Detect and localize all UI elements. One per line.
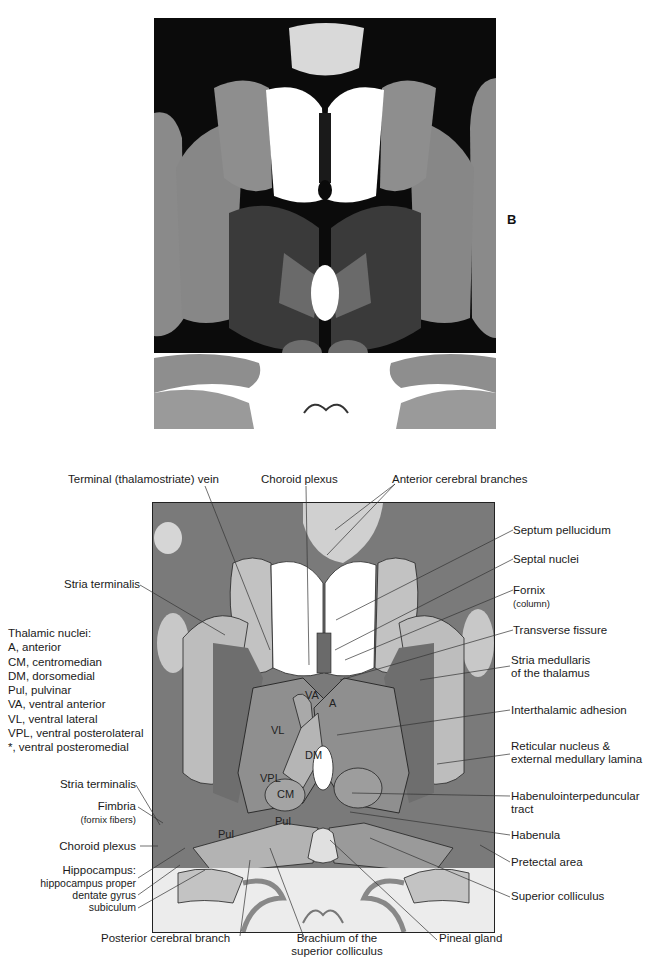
legend-item: VPL, ventral posterolateral [8,726,144,740]
label-fimbria: Fimbria (fornix fibers) [81,800,136,826]
label-stria-medullaris: Stria medullaris of the thalamus [511,654,590,680]
nucleus-label-cm: CM [277,788,294,800]
nucleus-label-pul-2: Pul [218,828,234,840]
thalamus-diagram-graphic [153,503,494,932]
nucleus-label-pul-1: Pul [275,815,291,827]
legend-item: CM, centromedian [8,655,144,669]
label-reticular-line1: Reticular nucleus & [511,740,642,753]
label-reticular-nucleus: Reticular nucleus & external medullary l… [511,740,642,766]
label-superior-colliculus: Superior colliculus [511,890,604,903]
label-brachium-line2: superior colliculus [282,945,392,958]
legend-item: Pul, pulvinar [8,683,144,697]
label-fornix-sub: (column) [513,597,550,610]
label-fimbria-sub: (fornix fibers) [81,813,136,826]
label-habenulointerpeduncular: Habenulointerpeduncular tract [511,790,640,816]
label-hippocampus-proper: hippocampus proper [40,877,136,889]
nucleus-label-vpl: VPL [260,772,281,784]
brain-section-photo [154,18,496,429]
label-transverse-fissure: Transverse fissure [513,624,607,637]
thalamus-diagram: VA A VL DM VPL CM Pul Pul [152,502,495,933]
legend-item: DM, dorsomedial [8,669,144,683]
label-choroid-plexus-top: Choroid plexus [261,473,338,486]
thalamic-nuclei-legend: Thalamic nuclei: A, anterior CM, centrom… [8,626,144,755]
label-hippocampus-title: Hippocampus: [40,864,136,877]
legend-item: VA, ventral anterior [8,697,144,711]
label-reticular-line2: external medullary lamina [511,753,642,766]
label-stria-medullaris-line2: of the thalamus [511,667,590,680]
label-brachium-line1: Brachium of the [282,932,392,945]
nucleus-label-a: A [329,697,336,709]
label-fornix-main: Fornix [513,584,545,596]
label-stria-terminalis-2: Stria terminalis [60,778,136,791]
label-terminal-vein: Terminal (thalamostriate) vein [68,473,219,486]
label-stria-terminalis-1: Stria terminalis [64,578,140,591]
label-hippocampus: Hippocampus: hippocampus proper dentate … [40,864,136,913]
label-interthalamic-adhesion: Interthalamic adhesion [511,704,627,717]
nucleus-label-va: VA [305,689,319,701]
label-fimbria-main: Fimbria [81,800,136,813]
label-brachium: Brachium of the superior colliculus [282,932,392,958]
label-septum-pellucidum: Septum pellucidum [513,524,611,537]
label-habenulointerpeduncular-line1: Habenulointerpeduncular [511,790,640,803]
nucleus-label-vl: VL [271,724,284,736]
label-habenula: Habenula [511,829,560,842]
label-posterior-cerebral-branch: Posterior cerebral branch [101,932,230,945]
label-fornix: Fornix (column) [513,584,550,610]
label-anterior-cerebral-branches: Anterior cerebral branches [392,473,528,486]
label-pretectal-area: Pretectal area [511,856,583,869]
label-septal-nuclei: Septal nuclei [513,553,579,566]
label-subiculum: subiculum [40,901,136,913]
legend-title: Thalamic nuclei: [8,626,144,640]
brain-section-photo-graphic [154,18,496,429]
label-pineal-gland: Pineal gland [439,932,502,945]
legend-item: VL, ventral lateral [8,712,144,726]
label-habenulointerpeduncular-line2: tract [511,803,640,816]
nucleus-label-dm: DM [305,749,322,761]
legend-item: *, ventral posteromedial [8,740,144,754]
label-dentate-gyrus: dentate gyrus [40,889,136,901]
panel-letter: B [507,212,516,227]
legend-item: A, anterior [8,640,144,654]
label-stria-medullaris-line1: Stria medullaris [511,654,590,667]
label-choroid-plexus-left: Choroid plexus [59,840,136,853]
